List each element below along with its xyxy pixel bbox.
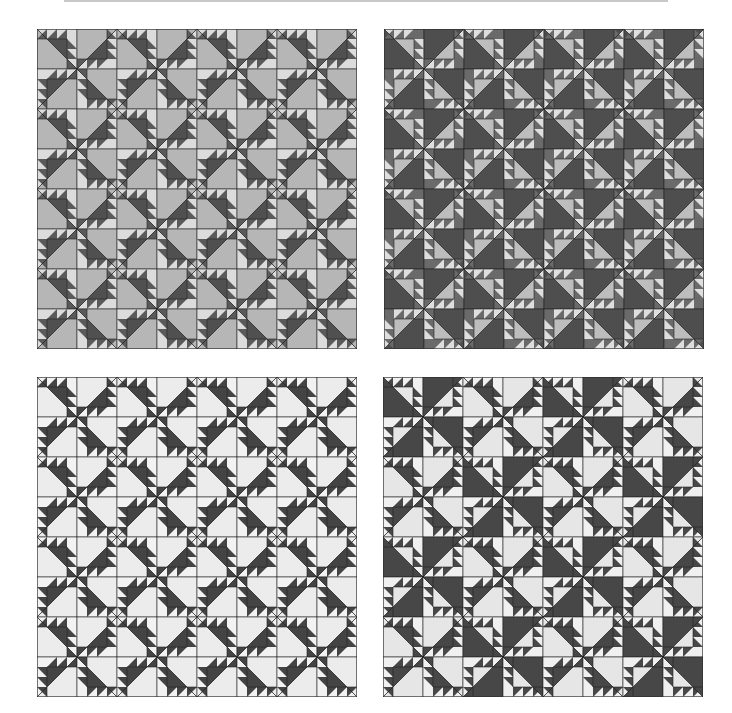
quilt-block (277, 29, 317, 69)
quilt-block (197, 229, 237, 269)
quilt-block (157, 309, 197, 349)
quilt-block (197, 69, 237, 109)
quilt-block (77, 617, 117, 657)
quilt-block (277, 69, 317, 109)
quilt-block (237, 457, 277, 497)
quilt-block (37, 229, 77, 269)
quilt-block (157, 269, 197, 309)
quilt-block (237, 269, 277, 309)
quilt-block (277, 109, 317, 149)
quilt-block (503, 577, 543, 617)
quilt-block (197, 657, 237, 697)
quilt-block (277, 657, 317, 697)
quilt-block (543, 577, 583, 617)
quilt-block (277, 537, 317, 577)
quilt-block (464, 269, 504, 309)
quilt-block (317, 309, 357, 349)
top-divider-line (64, 0, 668, 2)
quilt-block (504, 149, 544, 189)
quilt-block (664, 189, 704, 229)
quilt-block (544, 149, 584, 189)
quilt-block (623, 537, 663, 577)
quilt-block (117, 309, 157, 349)
quilt-block (424, 309, 464, 349)
quilt-block (584, 69, 624, 109)
quilt-block (237, 657, 277, 697)
quilt-block (117, 109, 157, 149)
quilt-light-background (37, 377, 357, 697)
quilt-block (77, 309, 117, 349)
quilt-block (117, 657, 157, 697)
quilt-block (317, 229, 357, 269)
quilt-block (237, 29, 277, 69)
quilt-block (317, 29, 357, 69)
quilt-block (544, 229, 584, 269)
quilt-block (37, 617, 77, 657)
quilt-block (384, 109, 424, 149)
quilt-block (277, 457, 317, 497)
quilt-block (423, 657, 463, 697)
quilt-block (383, 417, 423, 457)
quilt-block (237, 109, 277, 149)
quilt-block (237, 309, 277, 349)
quilt-block (157, 69, 197, 109)
quilt-block (383, 657, 423, 697)
quilt-block (77, 457, 117, 497)
quilt-block (384, 269, 424, 309)
quilt-block (117, 417, 157, 457)
quilt-block (383, 617, 423, 657)
quilt-block (117, 149, 157, 189)
quilt-block (77, 29, 117, 69)
quilt-block (197, 189, 237, 229)
quilt-block (624, 69, 664, 109)
quilt-block (37, 309, 77, 349)
quilt-block (384, 29, 424, 69)
quilt-block (464, 229, 504, 269)
quilt-block (663, 577, 703, 617)
quilt-block (384, 189, 424, 229)
quilt-block (77, 577, 117, 617)
quilt-block (544, 189, 584, 229)
quilt-block (383, 497, 423, 537)
quilt-block (664, 269, 704, 309)
quilt-block (383, 377, 423, 417)
quilt-block (463, 457, 503, 497)
quilt-block (504, 189, 544, 229)
quilt-block (383, 537, 423, 577)
quilt-block (623, 417, 663, 457)
quilt-block (237, 617, 277, 657)
quilt-block (583, 657, 623, 697)
quilt-block (463, 577, 503, 617)
quilt-block (277, 617, 317, 657)
quilt-block (623, 617, 663, 657)
quilt-block (237, 149, 277, 189)
quilt-block (77, 69, 117, 109)
quilt-block (157, 189, 197, 229)
quilt-block (544, 29, 584, 69)
quilt-block (663, 377, 703, 417)
quilt-block (37, 577, 77, 617)
quilt-block (117, 457, 157, 497)
quilt-block (237, 537, 277, 577)
quilt-block (584, 29, 624, 69)
quilt-block (317, 149, 357, 189)
quilt-block (117, 377, 157, 417)
quilt-block (157, 417, 197, 457)
quilt-block (317, 577, 357, 617)
quilt-block (384, 309, 424, 349)
quilt-block (543, 377, 583, 417)
quilt-block (277, 189, 317, 229)
quilt-block (37, 537, 77, 577)
quilt-block (237, 69, 277, 109)
quilt-block (504, 269, 544, 309)
quilt-block (583, 497, 623, 537)
quilt-block (317, 377, 357, 417)
quilt-block (384, 69, 424, 109)
quilt-block (197, 29, 237, 69)
quilt-block (37, 149, 77, 189)
quilt-block (77, 229, 117, 269)
quilt-block (77, 537, 117, 577)
quilt-block (424, 109, 464, 149)
quilt-block (317, 617, 357, 657)
quilt-block (423, 417, 463, 457)
